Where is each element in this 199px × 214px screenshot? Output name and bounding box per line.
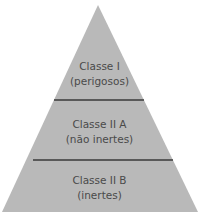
level-1-label: Classe I (perigosos) <box>0 59 199 89</box>
level-3-subtitle: (inertes) <box>0 188 199 203</box>
level-2-label: Classe II A (não inertes) <box>0 117 199 147</box>
level-3-title: Classe II B <box>0 173 199 188</box>
level-1-title: Classe I <box>0 59 199 74</box>
level-2-subtitle: (não inertes) <box>0 132 199 147</box>
level-1-subtitle: (perigosos) <box>0 74 199 89</box>
level-3-label: Classe II B (inertes) <box>0 173 199 203</box>
level-2-title: Classe II A <box>0 117 199 132</box>
